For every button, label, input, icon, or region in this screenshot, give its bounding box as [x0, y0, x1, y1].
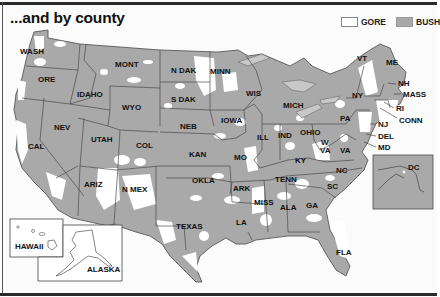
- state-label: VA: [320, 146, 331, 155]
- state-label: DC: [408, 163, 420, 172]
- state-label: ALASKA: [87, 265, 121, 274]
- state-label: CONN: [399, 116, 423, 125]
- state-label: PA: [340, 114, 351, 123]
- state-label: CAL: [28, 142, 45, 151]
- state-label: WIS: [246, 89, 262, 98]
- state-label: MINN: [210, 67, 231, 76]
- state-label: S DAK: [171, 95, 196, 104]
- state-label: MISS: [254, 198, 274, 207]
- state-label: MASS: [403, 90, 427, 99]
- state-label: MICH: [283, 101, 304, 110]
- state-label: FLA: [336, 248, 352, 257]
- state-label: GA: [306, 201, 318, 210]
- state-label: MO: [234, 153, 247, 162]
- state-label: WYO: [122, 103, 141, 112]
- state-label: MD: [378, 143, 391, 152]
- state-label: LA: [236, 218, 247, 227]
- state-label: TEXAS: [176, 222, 203, 231]
- state-label: IDAHO: [77, 90, 103, 99]
- state-label: ORE: [38, 75, 56, 84]
- state-label: KY: [295, 156, 307, 165]
- state-label: IND: [278, 131, 292, 140]
- state-label: IOWA: [221, 116, 243, 125]
- dc-inset: [373, 155, 433, 209]
- state-label: NH: [398, 79, 410, 88]
- state-label: ARK: [233, 184, 251, 193]
- state-label: VT: [357, 54, 367, 63]
- state-label: SC: [327, 182, 338, 191]
- state-label: ARIZ: [84, 180, 103, 189]
- state-label: OKLA: [192, 176, 215, 185]
- state-label: NEV: [54, 123, 71, 132]
- state-label: NJ: [378, 120, 388, 129]
- state-label: ME: [386, 58, 399, 67]
- state-label: KAN: [189, 150, 207, 159]
- state-label: NC: [336, 166, 348, 175]
- state-label: DEL: [378, 132, 394, 141]
- state-label: ALA: [280, 203, 297, 212]
- state-label: WASH: [20, 47, 44, 56]
- hawaii-inset: [10, 219, 63, 257]
- state-label: VA: [340, 146, 351, 155]
- state-label: NY: [352, 91, 364, 100]
- state-label: UTAH: [91, 135, 113, 144]
- state-label: TENN: [275, 175, 297, 184]
- state-label: HAWAII: [15, 242, 43, 251]
- state-label: N MEX: [122, 185, 148, 194]
- state-label: COL: [136, 141, 153, 150]
- state-label: N DAK: [171, 66, 197, 75]
- state-label: MONT: [115, 60, 139, 69]
- state-label: RI: [396, 104, 404, 113]
- state-label: ILL: [257, 133, 269, 142]
- state-label: NEB: [180, 122, 197, 131]
- state-label: OHIO: [300, 128, 320, 137]
